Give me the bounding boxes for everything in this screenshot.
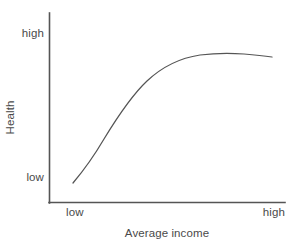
- y-axis-title: Health: [4, 88, 17, 148]
- x-axis-title: Average income: [49, 227, 285, 240]
- y-axis-tick-high: high: [0, 27, 44, 40]
- y-axis-tick-low: low: [0, 171, 44, 184]
- x-axis-tick-high: high: [200, 206, 285, 219]
- x-axis-tick-low: low: [66, 206, 84, 219]
- health-income-curve: [73, 53, 272, 183]
- chart-figure: high low low high Average income Health: [0, 0, 299, 252]
